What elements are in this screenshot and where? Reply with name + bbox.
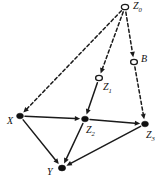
edge-z0-to-b	[126, 12, 133, 52]
edge-z2-to-z3	[90, 119, 135, 123]
causal-dag-figure: Z0BZ1XZ2Z3Y	[0, 0, 161, 181]
edge-z1-to-z2	[88, 83, 97, 110]
node-label-b: B	[141, 53, 147, 64]
node-label-z0: Z0	[133, 0, 143, 12]
arrowhead-z0-to-z1	[100, 68, 105, 74]
node-x[interactable]	[17, 113, 24, 119]
label-layer: Z0BZ1XZ2Z3Y	[6, 0, 156, 177]
node-label-subscript-z0: 0	[139, 5, 143, 12]
node-label-subscript-z2: 2	[92, 129, 96, 136]
node-label-subscript-z1: 1	[109, 86, 112, 93]
edge-z0-to-x	[27, 11, 121, 109]
edge-layer	[23, 11, 146, 166]
edge-b-to-z3	[135, 67, 143, 114]
node-label-z2: Z2	[86, 124, 96, 136]
arrowhead-b-to-z3	[141, 114, 146, 120]
node-z2[interactable]	[82, 116, 89, 122]
node-label-z3: Z3	[146, 129, 156, 141]
arrowhead-z1-to-z2	[86, 109, 91, 115]
node-b[interactable]	[131, 59, 138, 64]
edge-x-to-y	[23, 120, 55, 160]
node-z3[interactable]	[142, 121, 149, 127]
node-y[interactable]	[58, 165, 65, 171]
node-z0[interactable]	[121, 4, 128, 9]
edge-x-to-z2	[25, 116, 75, 118]
node-label-subscript-z3: 3	[151, 134, 156, 141]
arrowhead-z0-to-b	[130, 52, 135, 58]
edge-z2-to-y	[66, 124, 82, 159]
arrowhead-z2-to-z3	[135, 121, 141, 126]
edge-z3-to-y	[71, 126, 140, 163]
arrowhead-x-to-z2	[75, 116, 81, 121]
node-z1[interactable]	[96, 75, 103, 80]
node-label-x: X	[6, 115, 14, 126]
node-label-y: Y	[47, 166, 54, 177]
node-label-z1: Z1	[103, 81, 112, 93]
dag-canvas: Z0BZ1XZ2Z3Y	[0, 0, 161, 181]
